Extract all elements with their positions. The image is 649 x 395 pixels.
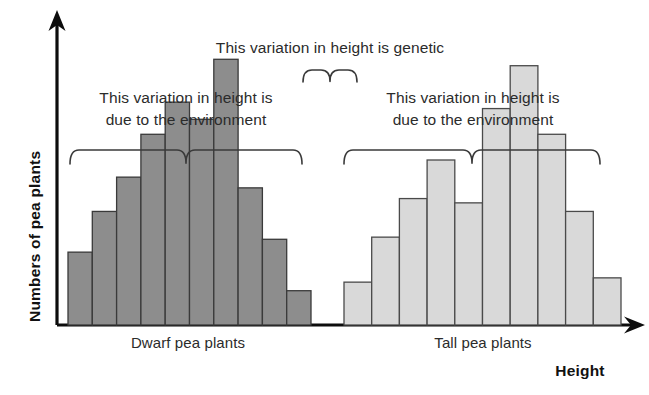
bar-tall-2 <box>399 199 427 325</box>
bar-tall-3 <box>427 160 455 325</box>
bar-tall-5 <box>483 109 511 325</box>
bar-tall-1 <box>372 237 400 325</box>
bar-tall-8 <box>566 211 594 325</box>
dwarf-environment-annotation-line1: This variation in height is <box>62 88 310 108</box>
category-label-dwarf: Dwarf pea plants <box>88 334 288 351</box>
bar-tall-9 <box>593 278 621 325</box>
bar-dwarf-1 <box>92 211 116 325</box>
bar-dwarf-2 <box>117 177 141 325</box>
tall-environment-annotation-line2: due to the environment <box>348 110 598 130</box>
x-axis-label: Height <box>520 362 640 380</box>
bar-dwarf-7 <box>238 188 262 325</box>
bar-dwarf-3 <box>141 134 165 325</box>
bar-tall-0 <box>344 282 372 325</box>
bar-tall-7 <box>538 134 566 325</box>
brace-genetic <box>303 70 357 82</box>
dwarf-environment-annotation-line2: due to the environment <box>62 110 310 130</box>
genetic-annotation-text: This variation in height is genetic <box>180 38 480 58</box>
bar-dwarf-8 <box>262 239 286 325</box>
chart-figure: Numbers of pea plants Height This variat… <box>0 0 649 395</box>
y-axis-label: Numbers of pea plants <box>26 151 44 322</box>
bar-dwarf-4 <box>165 102 189 325</box>
bar-dwarf-0 <box>68 252 92 325</box>
bar-dwarf-9 <box>287 291 311 325</box>
category-label-tall: Tall pea plants <box>388 334 578 351</box>
bar-tall-4 <box>455 203 483 325</box>
tall-environment-annotation-line1: This variation in height is <box>348 88 598 108</box>
